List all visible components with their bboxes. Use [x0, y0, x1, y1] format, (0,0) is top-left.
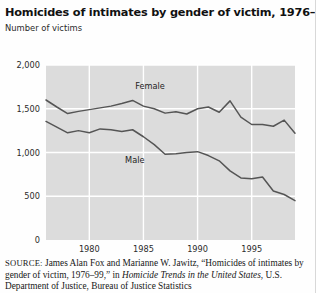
- chart-container: 05001,0001,5002,0001980198519901995Femal…: [0, 40, 316, 255]
- y-axis-tick-label: 500: [24, 191, 40, 201]
- chart-subtitle: Number of victims: [5, 23, 82, 33]
- source-label: SOURCE:: [5, 258, 43, 268]
- y-axis-tick-label: 1,500: [17, 104, 40, 114]
- x-axis-tick-label: 1980: [79, 244, 100, 254]
- source-line3-italic: United States: [211, 270, 261, 280]
- line-chart: 05001,0001,5002,0001980198519901995Femal…: [0, 40, 316, 255]
- source-line2-italic: Homicide Trends in the: [122, 270, 209, 280]
- series-label-female: Female: [135, 81, 165, 91]
- x-axis-tick-label: 1985: [133, 244, 154, 254]
- source-line1: James Alan Fox and Marianne W. Jawitz, “…: [43, 258, 256, 268]
- series-label-male: Male: [125, 155, 144, 165]
- y-axis-tick-label: 0: [35, 235, 40, 245]
- x-axis-tick-label: 1990: [187, 244, 208, 254]
- page-title: Homicides of intimates by gender of vict…: [5, 6, 316, 19]
- figure-page: Homicides of intimates by gender of vict…: [0, 0, 316, 293]
- x-axis-tick-label: 1995: [241, 244, 262, 254]
- page-right-rule: [315, 0, 316, 293]
- source-note: SOURCE: James Alan Fox and Marianne W. J…: [5, 258, 305, 293]
- y-axis-tick-label: 1,000: [17, 148, 40, 158]
- y-axis-tick-label: 2,000: [17, 60, 40, 70]
